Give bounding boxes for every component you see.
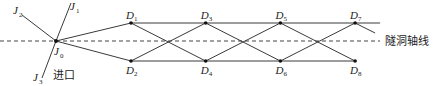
svg-text:D: D (125, 9, 134, 21)
svg-text:1: 1 (134, 15, 138, 23)
svg-text:8: 8 (358, 70, 362, 78)
svg-text:D: D (349, 64, 358, 76)
point-d4 (204, 59, 208, 63)
svg-text:5: 5 (283, 15, 287, 23)
point-labels: D1D2D3D4D5D6D7D8 (125, 9, 362, 78)
svg-text:0: 0 (60, 52, 64, 60)
label-d1: D1 (125, 9, 138, 23)
svg-text:3: 3 (39, 78, 43, 86)
label-d6: D6 (274, 64, 287, 78)
network-lines (56, 23, 380, 61)
svg-text:6: 6 (283, 70, 287, 78)
point-d1 (129, 21, 133, 25)
entrance-label: 进口 (53, 69, 75, 82)
label-d4: D4 (200, 64, 213, 78)
label-d3: D3 (200, 9, 213, 23)
point-d8 (353, 59, 357, 63)
svg-text:3: 3 (209, 15, 213, 23)
label-d5: D5 (274, 9, 287, 23)
edge-tail-diag (355, 23, 375, 33)
svg-text:2: 2 (134, 70, 138, 78)
tunnel-survey-network-diagram: 隧洞轴线 D1D2D3D4D5D6D7D8 J 1 J 2 J 3 J 0 进口 (0, 0, 447, 86)
svg-text:4: 4 (209, 70, 213, 78)
label-j2: J 2 (13, 4, 23, 19)
label-d2: D2 (125, 64, 138, 78)
ray-j1 (56, 3, 71, 41)
point-j0 (54, 39, 58, 43)
point-d7 (353, 21, 357, 25)
edge-j0-d1 (56, 23, 131, 41)
label-j3: J 3 (33, 71, 43, 86)
label-d7: D7 (349, 9, 362, 23)
label-j1: J 1 (70, 0, 80, 15)
svg-text:D: D (349, 9, 358, 21)
point-d2 (129, 59, 133, 63)
svg-text:D: D (200, 9, 209, 21)
edge-j0-d2 (56, 41, 131, 61)
tunnel-axis-label: 隧洞轴线 (385, 34, 429, 48)
svg-text:D: D (200, 64, 209, 76)
svg-text:D: D (125, 64, 134, 76)
svg-text:D: D (274, 64, 283, 76)
point-d5 (279, 21, 283, 25)
svg-text:1: 1 (76, 7, 80, 15)
svg-text:D: D (274, 9, 283, 21)
svg-text:7: 7 (358, 15, 362, 23)
label-j0: J 0 (54, 45, 64, 60)
point-d6 (279, 59, 283, 63)
label-d8: D8 (349, 64, 362, 78)
ray-j2 (22, 15, 56, 41)
point-d3 (204, 21, 208, 25)
svg-text:2: 2 (19, 11, 23, 19)
